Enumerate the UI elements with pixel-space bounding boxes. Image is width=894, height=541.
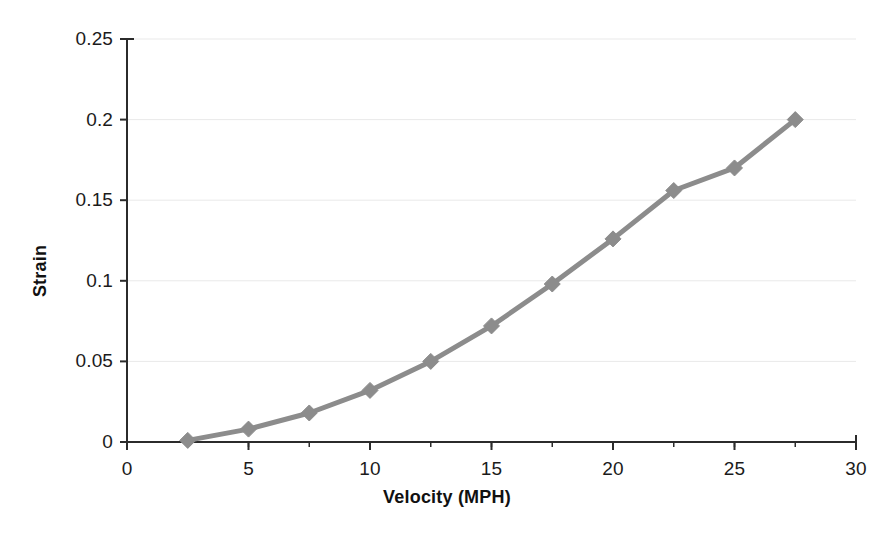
data-point-marker [362,382,378,398]
y-tick-label-3: 0.15 [40,189,113,211]
gridlines [127,39,856,361]
strain-velocity-chart: 00.050.10.150.20.25 051015202530 Velocit… [0,0,894,541]
x-tick-label-3: 15 [481,458,502,480]
plot-area [0,0,894,541]
data-point-marker [180,432,196,448]
axis-lines [127,39,856,442]
y-tick-label-4: 0.2 [40,109,113,131]
x-tick-label-0: 0 [122,458,133,480]
x-tick-label-4: 20 [602,458,623,480]
series-line-0 [188,120,796,441]
y-tick-label-0: 0 [40,431,113,453]
y-axis-title: Strain [30,244,51,296]
x-tick-label-1: 5 [243,458,254,480]
y-tick-label-5: 0.25 [40,28,113,50]
data-point-marker [241,421,257,437]
y-tick-label-2: 0.1 [40,270,113,292]
axis-tick-marks [120,39,856,450]
x-tick-label-6: 30 [845,458,866,480]
y-tick-label-1: 0.05 [40,350,113,372]
x-tick-label-5: 25 [724,458,745,480]
x-tick-label-2: 10 [359,458,380,480]
x-axis-title: Velocity (MPH) [0,487,894,508]
data-series-layer [180,112,804,449]
data-point-marker [301,405,317,421]
